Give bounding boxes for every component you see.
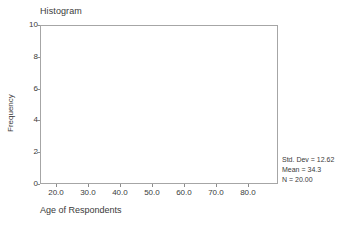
y-axis-tick-label: 6 [20,85,38,93]
histogram-bars-layer [41,26,277,183]
x-axis-tick-label: 20.0 [41,188,71,197]
y-axis-tick-label: 2 [20,148,38,156]
x-axis-tick-label: 70.0 [201,188,231,197]
x-axis-title: Age of Respondents [40,205,122,215]
x-axis-tick-mark [88,184,89,187]
x-axis-tick-mark [216,184,217,187]
x-axis-tick-mark [56,184,57,187]
y-axis-tick-label: 8 [20,53,38,61]
x-axis-tick-mark [184,184,185,187]
x-axis-tick-label: 40.0 [105,188,135,197]
statistics-annotation: Std. Dev = 12.62 Mean = 34.3 N = 20.00 [282,155,334,185]
y-axis-title: Frequency [6,118,15,132]
y-axis-tick-label: 4 [20,116,38,124]
y-axis-tick-mark [37,184,40,185]
histogram-chart: Histogram Frequency 0246810 20.030.040.0… [0,0,353,229]
x-axis-tick-label: 60.0 [169,188,199,197]
x-axis-tick-label: 50.0 [137,188,167,197]
x-axis-tick-mark [152,184,153,187]
x-axis-tick-label: 30.0 [73,188,103,197]
y-axis-tick-label: 0 [20,180,38,188]
chart-title: Histogram [40,6,82,16]
std-dev-text: Std. Dev = 12.62 [282,155,334,165]
y-axis-tick-label: 10 [20,21,38,29]
plot-area [40,25,278,184]
x-axis-tick-mark [248,184,249,187]
x-axis-tick-label: 80.0 [233,188,263,197]
mean-text: Mean = 34.3 [282,165,334,175]
x-axis-tick-mark [120,184,121,187]
sample-size-text: N = 20.00 [282,175,334,185]
